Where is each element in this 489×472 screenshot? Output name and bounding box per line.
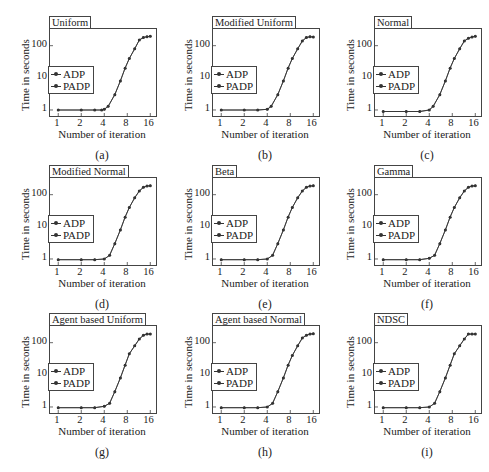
x-tick-label: 8	[448, 117, 453, 128]
panel-caption: (g)	[49, 445, 155, 460]
y-tick-label: 1	[42, 251, 47, 262]
x-tick-label: 1	[379, 414, 384, 425]
legend-label: PADP	[388, 80, 415, 92]
y-tick-label: 1	[42, 399, 47, 410]
panel-caption: (i)	[374, 445, 480, 460]
chart-title: Agent based Normal	[212, 313, 305, 326]
chart-panel-h: Agent based NormalTime in seconds1101001…	[165, 305, 328, 460]
chart-title: NDSC	[374, 313, 408, 326]
legend-label: ADP	[388, 365, 410, 377]
x-axis-label: Number of iteration	[364, 128, 489, 140]
y-tick-label: 10	[200, 367, 211, 378]
legend-label: PADP	[63, 80, 90, 92]
x-tick-label: 8	[123, 266, 128, 277]
line-marker-icon	[376, 231, 386, 239]
line-marker-icon	[51, 70, 61, 78]
line-marker-icon	[51, 231, 61, 239]
chart-panel-i: NDSCTime in seconds110100124816Number of…	[327, 305, 489, 460]
x-tick-label: 4	[263, 414, 268, 425]
chart-panel-b: Modified UniformTime in seconds110100124…	[165, 8, 328, 163]
x-tick-label: 2	[77, 117, 82, 128]
x-tick-label: 4	[263, 117, 268, 128]
y-tick-label: 1	[367, 102, 372, 113]
legend-item-padp: PADP	[51, 229, 90, 241]
legend: ADPPADP	[373, 363, 419, 391]
line-marker-icon	[51, 367, 61, 375]
x-tick-label: 4	[100, 117, 105, 128]
y-tick-label: 1	[205, 251, 210, 262]
y-tick-label: 1	[367, 399, 372, 410]
y-axis-label: Time in seconds	[19, 188, 31, 260]
legend-item-adp: ADP	[51, 68, 90, 80]
line-marker-icon	[376, 379, 386, 387]
line-marker-icon	[214, 70, 224, 78]
x-tick-label: 1	[379, 117, 384, 128]
line-marker-icon	[51, 219, 61, 227]
x-tick-label: 1	[54, 266, 59, 277]
line-marker-icon	[214, 379, 224, 387]
y-tick-label: 100	[194, 38, 210, 49]
legend-label: ADP	[226, 217, 248, 229]
y-axis-label: Time in seconds	[344, 336, 356, 408]
legend-item-adp: ADP	[376, 68, 415, 80]
y-tick-label: 10	[362, 367, 373, 378]
legend-item-padp: PADP	[214, 377, 253, 389]
legend-label: PADP	[388, 377, 415, 389]
legend: ADPPADP	[48, 363, 94, 391]
x-tick-label: 16	[468, 414, 479, 425]
x-tick-label: 4	[100, 266, 105, 277]
x-axis-label: Number of iteration	[364, 277, 489, 289]
x-tick-label: 2	[402, 117, 407, 128]
legend: ADPPADP	[48, 66, 94, 94]
y-tick-label: 100	[194, 335, 210, 346]
y-tick-label: 1	[42, 102, 47, 113]
x-axis-label: Number of iteration	[364, 425, 489, 437]
x-tick-label: 8	[448, 266, 453, 277]
y-tick-label: 10	[200, 70, 211, 81]
x-tick-label: 2	[77, 414, 82, 425]
y-tick-label: 1	[205, 399, 210, 410]
legend-label: PADP	[63, 229, 90, 241]
legend-label: ADP	[63, 68, 85, 80]
x-tick-label: 16	[468, 117, 479, 128]
y-tick-label: 1	[205, 102, 210, 113]
legend: ADPPADP	[211, 363, 257, 391]
legend: ADPPADP	[211, 66, 257, 94]
x-tick-label: 8	[286, 117, 291, 128]
x-tick-label: 16	[306, 117, 317, 128]
line-marker-icon	[214, 82, 224, 90]
y-tick-label: 10	[37, 367, 48, 378]
chart-panel-e: BetaTime in seconds110100124816Number of…	[165, 157, 328, 312]
x-tick-label: 2	[402, 266, 407, 277]
x-tick-label: 1	[54, 414, 59, 425]
line-marker-icon	[376, 367, 386, 375]
x-axis-label: Number of iteration	[39, 128, 165, 140]
chart-title: Modified Uniform	[212, 16, 296, 29]
y-tick-label: 10	[362, 70, 373, 81]
chart-title: Uniform	[49, 16, 91, 29]
x-tick-label: 16	[143, 117, 154, 128]
chart-panel-a: UniformTime in seconds110100124816Number…	[2, 8, 165, 163]
chart-panel-d: Modified NormalTime in seconds1101001248…	[2, 157, 165, 312]
legend: ADPPADP	[211, 215, 257, 243]
x-tick-label: 2	[402, 414, 407, 425]
legend: ADPPADP	[48, 215, 94, 243]
legend: ADPPADP	[373, 66, 419, 94]
x-tick-label: 1	[217, 414, 222, 425]
chart-title: Normal	[374, 16, 412, 29]
y-tick-label: 10	[37, 219, 48, 230]
legend-label: PADP	[226, 377, 253, 389]
x-tick-label: 4	[425, 117, 430, 128]
legend-label: ADP	[388, 68, 410, 80]
legend-label: PADP	[226, 229, 253, 241]
x-tick-label: 1	[217, 266, 222, 277]
legend-item-padp: PADP	[376, 80, 415, 92]
line-marker-icon	[51, 82, 61, 90]
y-tick-label: 10	[200, 219, 211, 230]
y-axis-label: Time in seconds	[344, 188, 356, 260]
y-tick-label: 100	[31, 187, 47, 198]
legend-label: ADP	[388, 217, 410, 229]
y-tick-label: 100	[356, 187, 372, 198]
chart-panel-c: NormalTime in seconds110100124816Number …	[327, 8, 489, 163]
line-marker-icon	[214, 219, 224, 227]
